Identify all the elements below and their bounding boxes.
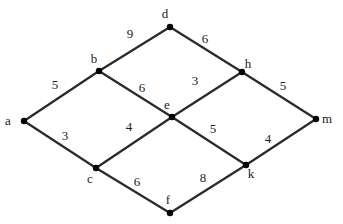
edge-f-k — [170, 165, 246, 213]
edge-weight-h-m: 5 — [280, 78, 287, 93]
edge-weight-e-k: 5 — [210, 121, 217, 136]
edge-b-e — [99, 71, 172, 117]
edge-e-h — [172, 72, 242, 117]
node-label-f: f — [166, 192, 171, 207]
node-label-d: d — [162, 6, 169, 21]
edge-a-c — [24, 121, 96, 168]
nodes-group — [21, 24, 319, 216]
node-m — [313, 116, 319, 122]
edge-weight-b-e: 6 — [139, 80, 146, 95]
node-label-m: m — [322, 111, 332, 126]
edge-weight-b-d: 9 — [127, 26, 134, 41]
node-label-k: k — [248, 166, 255, 181]
node-b — [96, 68, 102, 74]
node-e — [169, 114, 175, 120]
node-c — [93, 165, 99, 171]
edge-weight-f-k: 8 — [200, 170, 207, 185]
edge-weight-d-h: 6 — [202, 31, 209, 46]
edge-a-b — [24, 71, 99, 121]
node-f — [167, 210, 173, 216]
edge-k-m — [246, 119, 316, 165]
node-labels-group: abcdefhkm — [5, 6, 332, 207]
edge-weight-a-b: 5 — [52, 77, 59, 92]
node-label-h: h — [245, 56, 252, 71]
weighted-graph-diagram: 539646635854 abcdefhkm — [0, 0, 343, 224]
edge-weight-c-e: 4 — [126, 119, 133, 134]
node-a — [21, 118, 27, 124]
node-label-c: c — [87, 171, 93, 186]
edge-weight-k-m: 4 — [265, 131, 272, 146]
node-label-e: e — [164, 97, 170, 112]
edges-group — [24, 27, 316, 213]
node-label-b: b — [91, 51, 98, 66]
edge-weight-e-h: 3 — [192, 73, 199, 88]
node-d — [167, 24, 173, 30]
edge-b-d — [99, 27, 170, 71]
node-label-a: a — [5, 113, 11, 128]
edge-weight-c-f: 6 — [134, 174, 141, 189]
edge-weight-a-c: 3 — [62, 128, 69, 143]
edge-c-e — [96, 117, 172, 168]
